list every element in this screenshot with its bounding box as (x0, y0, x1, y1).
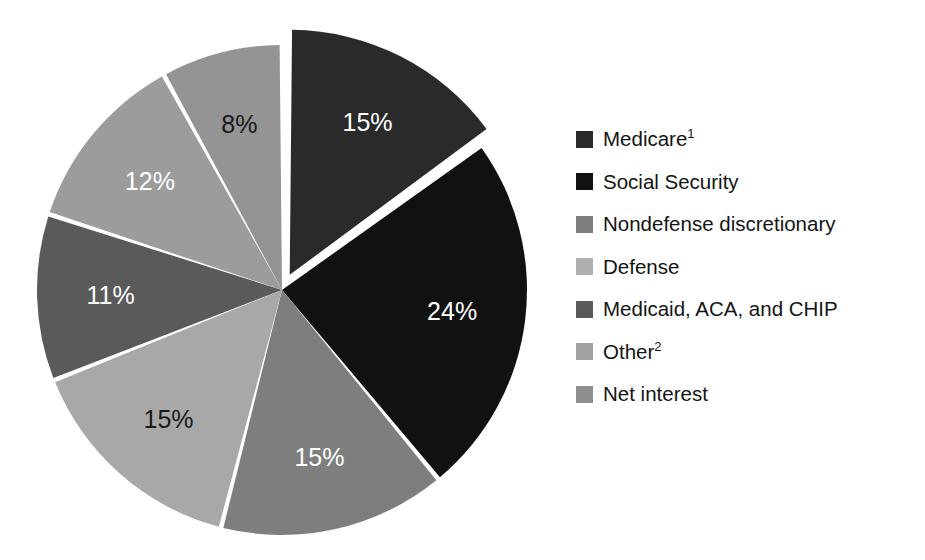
pie-chart-plot-area: 15%24%15%15%11%12%8% (0, 0, 565, 560)
legend-item[interactable]: Social Security (576, 161, 916, 204)
legend-footnote-marker: 1 (687, 126, 694, 141)
pie-slice-data-label: 8% (221, 110, 257, 138)
legend-item-label: Social Security (603, 172, 739, 193)
legend-footnote-marker: 2 (654, 339, 661, 354)
legend-item[interactable]: Other2 (576, 331, 916, 374)
legend-item-label: Other2 (603, 342, 662, 363)
legend-swatch-icon (576, 386, 593, 403)
legend-swatch-icon (576, 216, 593, 233)
legend-swatch-icon (576, 258, 593, 275)
chart-legend: Medicare1Social SecurityNondefense discr… (576, 118, 916, 416)
legend-item-label: Nondefense discretionary (603, 214, 835, 235)
legend-swatch-icon (576, 173, 593, 190)
pie-slice-data-label: 12% (125, 167, 175, 195)
legend-item-label: Medicare1 (603, 129, 695, 150)
legend-item[interactable]: Medicaid, ACA, and CHIP (576, 288, 916, 331)
legend-item[interactable]: Medicare1 (576, 118, 916, 161)
legend-item-label: Medicaid, ACA, and CHIP (603, 299, 838, 320)
legend-item[interactable]: Defense (576, 246, 916, 289)
legend-swatch-icon (576, 343, 593, 360)
pie-slice-data-label: 15% (144, 405, 194, 433)
pie-chart-figure: 15%24%15%15%11%12%8% Medicare1Social Sec… (0, 0, 925, 560)
pie-slice-data-label: 15% (294, 443, 344, 471)
legend-item[interactable]: Net interest (576, 373, 916, 416)
legend-item-label: Defense (603, 257, 679, 278)
pie-slice-data-label: 11% (86, 281, 134, 309)
legend-swatch-icon (576, 301, 593, 318)
pie-chart-svg: 15%24%15%15%11%12%8% (0, 0, 565, 560)
legend-item-label: Net interest (603, 384, 708, 405)
legend-item[interactable]: Nondefense discretionary (576, 203, 916, 246)
pie-slice-data-label: 24% (427, 297, 477, 325)
legend-swatch-icon (576, 131, 593, 148)
pie-slice-data-label: 15% (343, 108, 393, 136)
